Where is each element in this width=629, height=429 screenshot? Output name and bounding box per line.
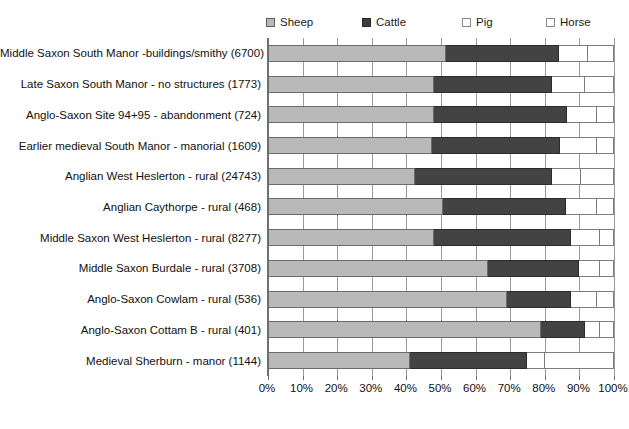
stacked-bar[interactable] bbox=[268, 45, 614, 62]
category-axis-labels: Middle Saxon South Manor -buildings/smit… bbox=[0, 38, 261, 376]
tick-label: 60% bbox=[463, 382, 486, 394]
bar-segment-cattle[interactable] bbox=[443, 198, 566, 215]
category-label: Medieval Sherburn - manor (1144) bbox=[0, 355, 261, 367]
bar-row bbox=[268, 222, 613, 253]
tick-label: 20% bbox=[325, 382, 348, 394]
bar-segment-sheep[interactable] bbox=[268, 291, 507, 308]
bar-segment-pig[interactable] bbox=[585, 321, 601, 338]
pig-swatch-icon bbox=[462, 18, 471, 27]
horse-swatch-icon bbox=[546, 18, 555, 27]
bar-segment-cattle[interactable] bbox=[432, 137, 560, 154]
stacked-bar[interactable] bbox=[268, 168, 614, 185]
bar-row bbox=[268, 69, 613, 100]
category-label: Anglian Caythorpe - rural (468) bbox=[0, 201, 261, 213]
tick-label: 10% bbox=[290, 382, 313, 394]
tick-mark bbox=[372, 376, 373, 380]
bar-row bbox=[268, 345, 613, 376]
tick-mark bbox=[510, 376, 511, 380]
bar-segment-pig[interactable] bbox=[552, 168, 581, 185]
stacked-bar[interactable] bbox=[268, 198, 614, 215]
bar-segment-sheep[interactable] bbox=[268, 260, 488, 277]
bar-segment-sheep[interactable] bbox=[268, 106, 434, 123]
bar-segment-horse[interactable] bbox=[600, 229, 614, 246]
bar-segment-cattle[interactable] bbox=[415, 168, 552, 185]
bar-segment-cattle[interactable] bbox=[434, 229, 571, 246]
stacked-bar[interactable] bbox=[268, 291, 614, 308]
bar-segment-cattle[interactable] bbox=[488, 260, 580, 277]
bar-segment-horse[interactable] bbox=[597, 198, 614, 215]
category-label: Middle Saxon Burdale - rural (3708) bbox=[0, 262, 261, 274]
tick-mark bbox=[579, 376, 580, 380]
bar-segment-pig[interactable] bbox=[552, 76, 585, 93]
bar-segment-cattle[interactable] bbox=[446, 45, 558, 62]
bar-row bbox=[268, 38, 613, 69]
legend-item-sheep[interactable]: Sheep bbox=[266, 16, 313, 28]
bar-segment-sheep[interactable] bbox=[268, 352, 410, 369]
bar-segment-horse[interactable] bbox=[597, 137, 614, 154]
tick-label: 0% bbox=[259, 382, 276, 394]
stacked-bar[interactable] bbox=[268, 76, 614, 93]
bar-segment-horse[interactable] bbox=[600, 321, 614, 338]
bar-row bbox=[268, 130, 613, 161]
bar-segment-pig[interactable] bbox=[567, 106, 596, 123]
stacked-bar-chart: SheepCattlePigHorse Middle Saxon South M… bbox=[0, 0, 629, 429]
bar-segment-sheep[interactable] bbox=[268, 168, 415, 185]
value-axis-tick-labels: 0%10%20%30%40%50%60%70%80%90%100% bbox=[267, 382, 613, 400]
bar-rows bbox=[268, 38, 613, 376]
stacked-bar[interactable] bbox=[268, 229, 614, 246]
legend-item-label: Cattle bbox=[376, 16, 406, 28]
bar-segment-cattle[interactable] bbox=[434, 76, 552, 93]
bar-segment-pig[interactable] bbox=[527, 352, 544, 369]
bar-segment-sheep[interactable] bbox=[268, 45, 446, 62]
bar-segment-horse[interactable] bbox=[600, 260, 614, 277]
bar-segment-pig[interactable] bbox=[559, 45, 588, 62]
category-label: Middle Saxon South Manor -buildings/smit… bbox=[0, 47, 261, 59]
bar-segment-pig[interactable] bbox=[571, 291, 597, 308]
stacked-bar[interactable] bbox=[268, 137, 614, 154]
bar-segment-horse[interactable] bbox=[597, 106, 614, 123]
legend-item-pig[interactable]: Pig bbox=[462, 16, 493, 28]
tick-label: 30% bbox=[359, 382, 382, 394]
bar-segment-pig[interactable] bbox=[579, 260, 600, 277]
tick-mark bbox=[337, 376, 338, 380]
legend-item-label: Sheep bbox=[280, 16, 313, 28]
category-label: Earlier medieval South Manor - manorial … bbox=[0, 140, 261, 152]
bar-segment-pig[interactable] bbox=[571, 229, 600, 246]
legend-item-horse[interactable]: Horse bbox=[546, 16, 591, 28]
legend-item-cattle[interactable]: Cattle bbox=[362, 16, 406, 28]
bar-row bbox=[268, 253, 613, 284]
category-label: Anglo-Saxon Site 94+95 - abandonment (72… bbox=[0, 109, 261, 121]
stacked-bar[interactable] bbox=[268, 352, 614, 369]
cattle-swatch-icon bbox=[362, 18, 371, 27]
bar-segment-horse[interactable] bbox=[588, 45, 614, 62]
bar-segment-cattle[interactable] bbox=[410, 352, 528, 369]
bar-segment-horse[interactable] bbox=[545, 352, 614, 369]
bar-segment-sheep[interactable] bbox=[268, 321, 541, 338]
bar-segment-cattle[interactable] bbox=[434, 106, 567, 123]
bar-segment-horse[interactable] bbox=[597, 291, 614, 308]
bar-segment-cattle[interactable] bbox=[541, 321, 584, 338]
bar-segment-sheep[interactable] bbox=[268, 76, 434, 93]
tick-mark bbox=[476, 376, 477, 380]
category-label: Late Saxon South Manor - no structures (… bbox=[0, 78, 261, 90]
stacked-bar[interactable] bbox=[268, 106, 614, 123]
bar-row bbox=[268, 192, 613, 223]
bar-segment-pig[interactable] bbox=[566, 198, 597, 215]
bar-row bbox=[268, 284, 613, 315]
bar-row bbox=[268, 99, 613, 130]
bar-segment-sheep[interactable] bbox=[268, 137, 432, 154]
bar-segment-horse[interactable] bbox=[581, 168, 614, 185]
bar-segment-cattle[interactable] bbox=[507, 291, 571, 308]
stacked-bar[interactable] bbox=[268, 260, 614, 277]
bar-segment-sheep[interactable] bbox=[268, 198, 443, 215]
bar-segment-horse[interactable] bbox=[585, 76, 614, 93]
tick-mark bbox=[545, 376, 546, 380]
bar-segment-pig[interactable] bbox=[560, 137, 596, 154]
tick-label: 70% bbox=[498, 382, 521, 394]
category-label: Middle Saxon West Heslerton - rural (827… bbox=[0, 232, 261, 244]
bar-row bbox=[268, 161, 613, 192]
gridline-100 bbox=[614, 38, 615, 376]
legend-item-label: Pig bbox=[476, 16, 493, 28]
stacked-bar[interactable] bbox=[268, 321, 614, 338]
bar-segment-sheep[interactable] bbox=[268, 229, 434, 246]
